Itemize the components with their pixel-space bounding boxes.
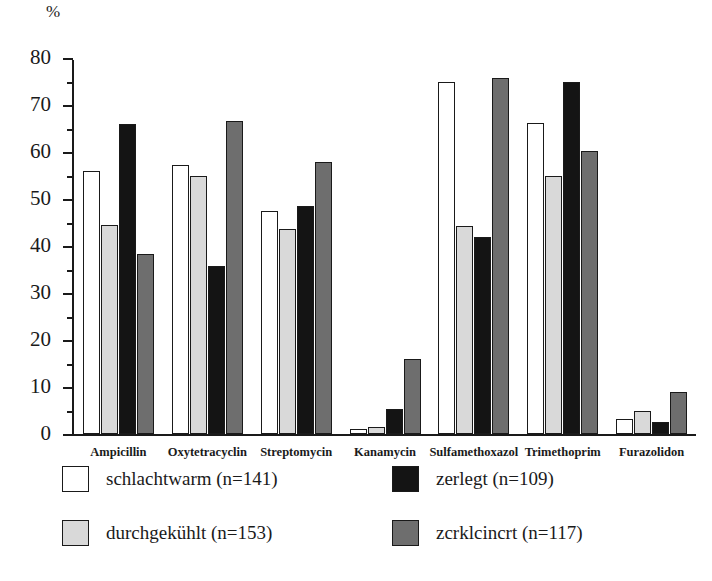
y-tick-minor: [67, 129, 73, 131]
bar: [438, 82, 455, 434]
y-tick-label: 40: [30, 235, 51, 256]
bar: [492, 78, 509, 434]
y-tick-major: 80: [63, 58, 73, 60]
figure-caption-fragment: [14, 564, 16, 574]
bar: [279, 229, 296, 434]
y-tick-major: 0: [63, 434, 73, 436]
bar: [652, 422, 669, 434]
y-tick-major: 70: [63, 105, 73, 107]
y-tick-minor: [67, 176, 73, 178]
y-tick-label: 50: [30, 188, 51, 209]
bar: [545, 176, 562, 434]
y-tick-major: 20: [63, 340, 73, 342]
x-axis-line: [72, 434, 696, 436]
legend-swatch: [62, 466, 89, 492]
bar: [315, 162, 332, 434]
y-tick-major: 40: [63, 246, 73, 248]
bar-groups: AmpicillinOxytetracyclinStreptomycinKana…: [74, 60, 696, 434]
y-axis-unit-label: %: [46, 2, 61, 22]
legend-swatch: [392, 520, 419, 546]
x-axis-category-label: Ampicillin: [90, 445, 146, 460]
bar: [190, 176, 207, 434]
y-tick-minor: [67, 364, 73, 366]
bar: [172, 165, 189, 434]
legend-item: zcrklcincrt (n=117): [392, 520, 682, 546]
y-tick-major: 30: [63, 293, 73, 295]
bar: [83, 171, 100, 434]
bar-group: Sulfamethoxazol: [429, 60, 518, 434]
bar: [119, 124, 136, 434]
y-tick-label: 80: [30, 47, 51, 68]
x-axis-category-label: Trimethoprim: [525, 445, 601, 460]
y-tick-label: 30: [30, 282, 51, 303]
legend-item: schlachtwarm (n=141): [62, 466, 392, 492]
bar: [634, 411, 651, 435]
legend-item: zerlegt (n=109): [392, 466, 682, 492]
y-tick-minor: [67, 411, 73, 413]
bar: [297, 206, 314, 434]
bar: [261, 211, 278, 434]
bar-chart-figure: % 01020304050607080 AmpicillinOxytetracy…: [0, 0, 712, 581]
x-axis-category-label: Furazolidon: [619, 445, 684, 460]
bar: [404, 359, 421, 434]
bar: [581, 151, 598, 434]
y-tick-label: 60: [30, 141, 51, 162]
y-tick-label: 10: [30, 376, 51, 397]
bar: [670, 392, 687, 434]
bar: [456, 226, 473, 434]
bar: [137, 254, 154, 434]
legend-swatch: [62, 520, 89, 546]
bar-group: Streptomycin: [252, 60, 341, 434]
x-axis-category-label: Kanamycin: [354, 445, 416, 460]
y-tick-major: 10: [63, 387, 73, 389]
y-tick-label: 70: [30, 94, 51, 115]
y-tick-minor: [67, 223, 73, 225]
bar: [474, 237, 491, 434]
bar: [101, 225, 118, 434]
bar-group: Oxytetracyclin: [163, 60, 252, 434]
legend-label: zcrklcincrt (n=117): [436, 522, 583, 544]
legend-label: durchgekühlt (n=153): [106, 522, 272, 544]
bar-group: Kanamycin: [341, 60, 430, 434]
bar: [616, 419, 633, 434]
bar: [563, 82, 580, 434]
bar: [208, 266, 225, 434]
y-tick-major: 60: [63, 152, 73, 154]
x-axis-category-label: Oxytetracyclin: [168, 445, 247, 460]
chart-legend: schlachtwarm (n=141)zerlegt (n=109)durch…: [62, 466, 682, 546]
legend-swatch: [392, 466, 419, 492]
bar: [386, 409, 403, 434]
bar-group: Ampicillin: [74, 60, 163, 434]
bar: [527, 123, 544, 434]
bar: [350, 429, 367, 434]
legend-label: zerlegt (n=109): [436, 468, 554, 490]
legend-item: durchgekühlt (n=153): [62, 520, 392, 546]
plot-area: 01020304050607080 AmpicillinOxytetracycl…: [72, 60, 696, 436]
legend-label: schlachtwarm (n=141): [106, 468, 278, 490]
y-tick-major: 50: [63, 199, 73, 201]
y-tick-label: 20: [30, 329, 51, 350]
y-tick-minor: [67, 317, 73, 319]
y-tick-minor: [67, 270, 73, 272]
x-axis-category-label: Streptomycin: [260, 445, 332, 460]
bar-group: Furazolidon: [607, 60, 696, 434]
bar-group: Trimethoprim: [518, 60, 607, 434]
bar: [226, 121, 243, 434]
x-axis-category-label: Sulfamethoxazol: [429, 445, 518, 460]
y-tick-label: 0: [41, 423, 52, 444]
bar: [368, 427, 385, 434]
y-tick-minor: [67, 82, 73, 84]
